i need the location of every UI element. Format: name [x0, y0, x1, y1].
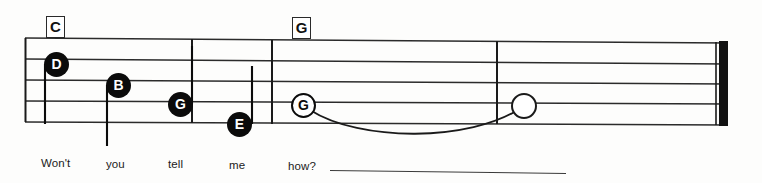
notehead-b[interactable]: B	[106, 73, 131, 98]
staff-line-1	[25, 122, 728, 125]
staff-line-4	[25, 59, 728, 64]
music-sheet: C G D B G E G Won't you tell me how?	[0, 0, 762, 183]
lyric-word-3: tell	[168, 158, 183, 170]
lyric-word-1: Won't	[41, 157, 70, 169]
chord-symbol-c[interactable]: C	[46, 16, 65, 38]
notehead-e[interactable]: E	[227, 112, 252, 137]
notehead-d[interactable]: D	[44, 52, 69, 77]
chord-symbol-g[interactable]: G	[292, 17, 311, 39]
staff-line-2	[25, 101, 728, 104]
lyric-word-4: me	[229, 159, 245, 171]
lyric-word-2: you	[106, 158, 125, 170]
notehead-g-second[interactable]: G	[291, 93, 316, 118]
staff-line-5	[25, 38, 728, 43]
tie-slur	[310, 108, 521, 134]
barline-final-thick	[719, 41, 728, 126]
notehead-g-first[interactable]: G	[168, 92, 193, 117]
notehead-whole[interactable]	[511, 93, 537, 119]
lyric-word-5: how?	[288, 160, 316, 172]
